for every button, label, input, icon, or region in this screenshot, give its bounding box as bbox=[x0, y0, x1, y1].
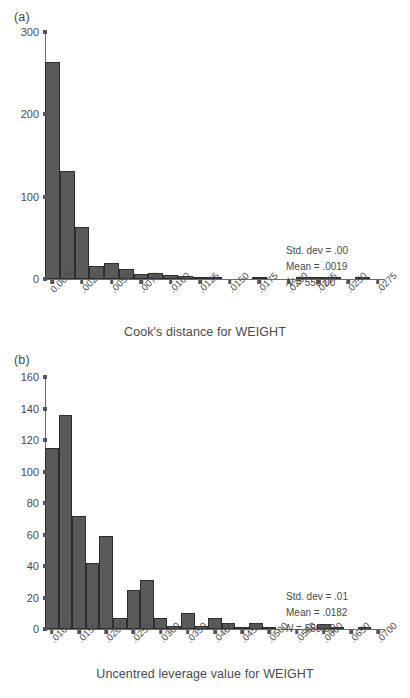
y-tick-label: 120 bbox=[5, 434, 39, 446]
n-text-b: N = 550.00 bbox=[286, 621, 348, 637]
mean-text-b: Mean = .0182 bbox=[286, 605, 348, 621]
y-tick-label: 0 bbox=[5, 273, 39, 285]
y-tick-label: 40 bbox=[5, 560, 39, 572]
y-tick-mark bbox=[43, 277, 47, 281]
y-tick-label: 100 bbox=[5, 191, 39, 203]
panel-label-b: (b) bbox=[14, 353, 30, 367]
y-tick-mark bbox=[43, 30, 47, 34]
n-value-a: = 550.00 bbox=[293, 277, 335, 288]
stats-annotation-a: Std. dev = .00 Mean = .0019 N = 550.00 bbox=[286, 243, 348, 292]
std-dev-text-a: Std. dev = .00 bbox=[286, 243, 348, 259]
y-tick-label: 300 bbox=[5, 26, 39, 38]
y-tick-mark bbox=[43, 112, 47, 116]
y-tick-mark bbox=[43, 195, 47, 199]
n-value-b: = 550.00 bbox=[293, 623, 335, 634]
y-tick-mark bbox=[43, 564, 47, 568]
y-tick-mark bbox=[43, 596, 47, 600]
y-tick-label: 60 bbox=[5, 529, 39, 541]
y-tick-mark bbox=[43, 375, 47, 379]
y-tick-mark bbox=[43, 627, 47, 631]
y-tick-label: 100 bbox=[5, 466, 39, 478]
stats-annotation-b: Std. dev = .01 Mean = .0182 N = 550.00 bbox=[286, 589, 348, 638]
panel-label-a: (a) bbox=[14, 10, 30, 24]
x-axis-title-b: Uncentred leverage value for WEIGHT bbox=[0, 667, 410, 681]
y-tick-mark bbox=[43, 533, 47, 537]
y-tick-label: 0 bbox=[5, 623, 39, 635]
std-dev-text-b: Std. dev = .01 bbox=[286, 589, 348, 605]
y-tick-mark bbox=[43, 438, 47, 442]
y-tick-label: 160 bbox=[5, 371, 39, 383]
y-tick-mark bbox=[43, 407, 47, 411]
y-tick-label: 80 bbox=[5, 497, 39, 509]
x-axis-title-a: Cook's distance for WEIGHT bbox=[0, 325, 410, 339]
plot-area-a: 0100200300 0.0000.0025.0050.0075.0100.01… bbox=[45, 32, 385, 279]
y-tick-mark bbox=[43, 501, 47, 505]
y-tick-label: 20 bbox=[5, 592, 39, 604]
y-tick-mark bbox=[43, 470, 47, 474]
histogram-panel-b: (b) 020406080100120140160 .0100.0150.020… bbox=[0, 349, 410, 698]
y-tick-label: 140 bbox=[5, 403, 39, 415]
histogram-panel-a: (a) 0100200300 0.0000.0025.0050.0075.010… bbox=[0, 0, 410, 349]
mean-text-a: Mean = .0019 bbox=[286, 259, 348, 275]
n-text-a: N = 550.00 bbox=[286, 275, 348, 291]
y-tick-label: 200 bbox=[5, 108, 39, 120]
y-tick-labels-a: 0100200300 bbox=[45, 32, 385, 279]
